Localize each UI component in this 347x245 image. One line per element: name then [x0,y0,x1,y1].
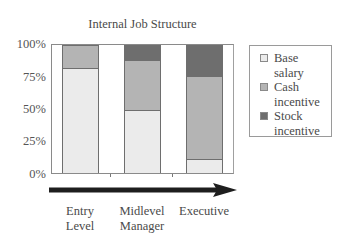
legend-swatch-stock-incentive [260,112,268,120]
x-tick [110,174,111,177]
category-label-executive: Executive [169,204,239,219]
chart-title: Internal Job Structure [0,17,285,32]
x-tick [172,174,173,177]
legend-label: incentive [274,95,338,110]
bar-segment-cash-incentive [124,60,161,110]
legend-swatch-cash-incentive [260,83,268,91]
legend-label: Cash [274,80,338,95]
category-label-line: Entry [45,204,115,219]
job-level-arrow-icon [49,182,239,198]
legend-label: salary [274,66,338,81]
category-label-line: Midlevel [107,204,177,219]
y-tick-75: 75% [0,70,46,84]
bar-segment-base-salary [62,68,99,173]
y-tick-50: 50% [0,102,46,116]
bar-segment-cash-incentive [186,76,223,159]
legend-swatch-base-salary [260,54,268,62]
bar-segment-stock-incentive [124,45,161,60]
plot-area [51,44,234,174]
legend-label: incentive [274,124,338,139]
y-tick-25: 25% [0,134,46,148]
legend: Base salary Cash incentive Stock incenti… [249,45,332,137]
bar-segment-stock-incentive [186,45,223,76]
bar-entry-level [62,45,99,173]
category-label-line: Executive [169,204,239,219]
category-label-line: Level [45,219,115,234]
category-label-entry-level: Entry Level [45,204,115,233]
bar-segment-base-salary [124,110,161,173]
legend-label: Stock [274,109,338,124]
legend-label: Base [274,51,338,66]
y-tick-100: 100% [0,37,46,51]
bar-executive [186,45,223,173]
y-tick-0: 0% [0,167,46,181]
category-label-midlevel-manager: Midlevel Manager [107,204,177,233]
category-label-line: Manager [107,219,177,234]
bar-segment-base-salary [186,159,223,173]
bar-midlevel-manager [124,45,161,173]
bar-segment-cash-incentive [62,45,99,68]
